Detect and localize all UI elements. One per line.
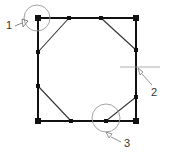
edge-point: [99, 16, 103, 20]
edge-point: [36, 50, 40, 54]
square-outline: [38, 18, 136, 121]
chamfer-top-left: [38, 18, 69, 52]
chamfer-top-right: [101, 18, 136, 50]
callout-label-2: 2: [151, 86, 157, 98]
highlight-circle: [92, 104, 120, 132]
callout-label-3: 3: [124, 137, 130, 149]
edge-point: [69, 119, 73, 123]
edge-point: [134, 48, 138, 52]
callout-label-1: 1: [6, 19, 12, 31]
chamfer-bottom-left: [38, 86, 71, 121]
corner-marker-top-left: [35, 15, 41, 21]
edge-point: [67, 16, 71, 20]
corner-marker-bottom-right: [133, 118, 139, 124]
chamfer-bottom-right: [106, 97, 136, 121]
corner-marker-bottom-left: [35, 118, 41, 124]
corner-marker-top-right: [133, 15, 139, 21]
callout-2: 2: [120, 67, 160, 98]
edge-point: [104, 119, 108, 123]
edge-point: [134, 95, 138, 99]
chamfer-lines: [38, 18, 136, 121]
callout-3: 3: [92, 104, 130, 149]
leader-line: [111, 137, 121, 142]
leader-line: [15, 23, 22, 26]
leader-line: [142, 74, 152, 85]
octagon-corner-diagram: 1 2 3: [0, 0, 169, 153]
edge-point: [36, 84, 40, 88]
